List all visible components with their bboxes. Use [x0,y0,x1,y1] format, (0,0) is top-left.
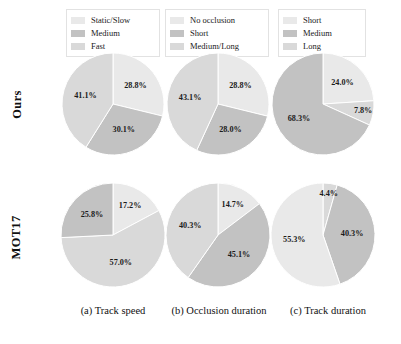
legend-track-speed: Static/Slow Medium Fast [66,9,160,57]
pie-slice-label: 28.8% [124,81,147,90]
legend-item: Short [283,14,360,26]
legend-item: No occlusion [170,14,263,26]
row-label-mot17-text: MOT17 [10,215,25,259]
legend-item: Medium/Long [170,40,263,52]
row-label-ours-text: Ours [9,90,24,118]
pie-slice-label: 28.0% [219,125,242,134]
pie-slice-label: 30.1% [113,125,136,134]
pie-slice-label: 7.8% [354,106,372,115]
pie-svg: 24.0%7.8%68.3% [271,52,375,156]
legend-swatch-icon [283,30,297,37]
pie-slice-label: 43.1% [179,93,202,102]
row-label-mot17: MOT17 [0,182,34,292]
pie-slice-label: 24.0% [331,78,354,87]
pie-chart-mot17-track-duration: 4.4%40.3%55.3% [268,182,378,292]
legend-swatch-icon [170,17,184,24]
pie-chart-mot17-occlusion-duration: 14.7%45.1%40.3% [163,182,273,292]
legend-item-label: Short [303,16,321,25]
legend-item-label: Medium/Long [190,42,239,51]
pie-svg: 17.2%57.0%25.8% [60,182,166,288]
legend-swatch-icon [283,17,297,24]
chart-column-track-speed: Static/Slow Medium Fast 28.8%30.1%41.1% … [58,0,168,300]
pie-slice-label: 4.4% [319,189,337,198]
legend-swatch-icon [71,17,85,24]
caption-track-duration: (c) Track duration [272,305,384,316]
row-label-ours: Ours [0,52,34,157]
legend-item: Medium [71,27,154,39]
legend-item: Fast [71,40,154,52]
legend-item-label: Static/Slow [91,16,130,25]
pie-svg: 28.8%28.0%43.1% [166,52,270,156]
legend-item: Medium [283,27,360,39]
pie-slice-label: 14.7% [222,200,245,209]
pie-svg: 14.7%45.1%40.3% [165,182,271,288]
pie-slice-label: 40.3% [179,221,202,230]
pie-slice-label: 68.3% [288,114,311,123]
legend-swatch-icon [170,30,184,37]
legend-swatch-icon [71,43,85,50]
pie-slice-label: 17.2% [119,201,142,210]
legend-item-label: No occlusion [190,16,235,25]
chart-column-occlusion-duration: No occlusion Short Medium/Long 28.8%28.0… [163,0,273,300]
caption-occlusion-duration: (b) Occlusion duration [160,305,278,316]
legend-swatch-icon [170,43,184,50]
legend-occlusion-duration: No occlusion Short Medium/Long [165,9,269,57]
legend-item-label: Medium [303,29,332,38]
legend-swatch-icon [71,30,85,37]
legend-item-label: Fast [91,42,105,51]
pie-slice-label: 41.1% [74,91,97,100]
legend-item: Long [283,40,360,52]
pie-chart-figure: Ours MOT17 Static/Slow Medium Fast 28.8%… [0,0,401,344]
legend-item-label: Long [303,42,321,51]
pie-slice-label: 55.3% [283,235,306,244]
legend-swatch-icon [283,43,297,50]
pie-slice-label: 40.3% [341,229,364,238]
pie-slice-label: 28.8% [229,81,252,90]
pie-chart-ours-track-speed: 28.8%30.1%41.1% [58,52,168,160]
pie-slice-label: 25.8% [81,210,104,219]
legend-item: Static/Slow [71,14,154,26]
pie-slice-label: 57.0% [110,258,133,267]
pie-chart-ours-track-duration: 24.0%7.8%68.3% [268,52,378,160]
legend-track-duration: Short Medium Long [278,9,366,57]
legend-item: Short [170,27,263,39]
caption-track-speed: (a) Track speed [58,305,168,316]
chart-column-track-duration: Short Medium Long 24.0%7.8%68.3% 4.4%40.… [268,0,378,300]
pie-svg: 28.8%30.1%41.1% [61,52,165,156]
pie-svg: 4.4%40.3%55.3% [270,182,376,288]
pie-slice-label: 45.1% [228,250,251,259]
legend-item-label: Medium [91,29,120,38]
pie-chart-ours-occlusion-duration: 28.8%28.0%43.1% [163,52,273,160]
pie-chart-mot17-track-speed: 17.2%57.0%25.8% [58,182,168,292]
legend-item-label: Short [190,29,208,38]
